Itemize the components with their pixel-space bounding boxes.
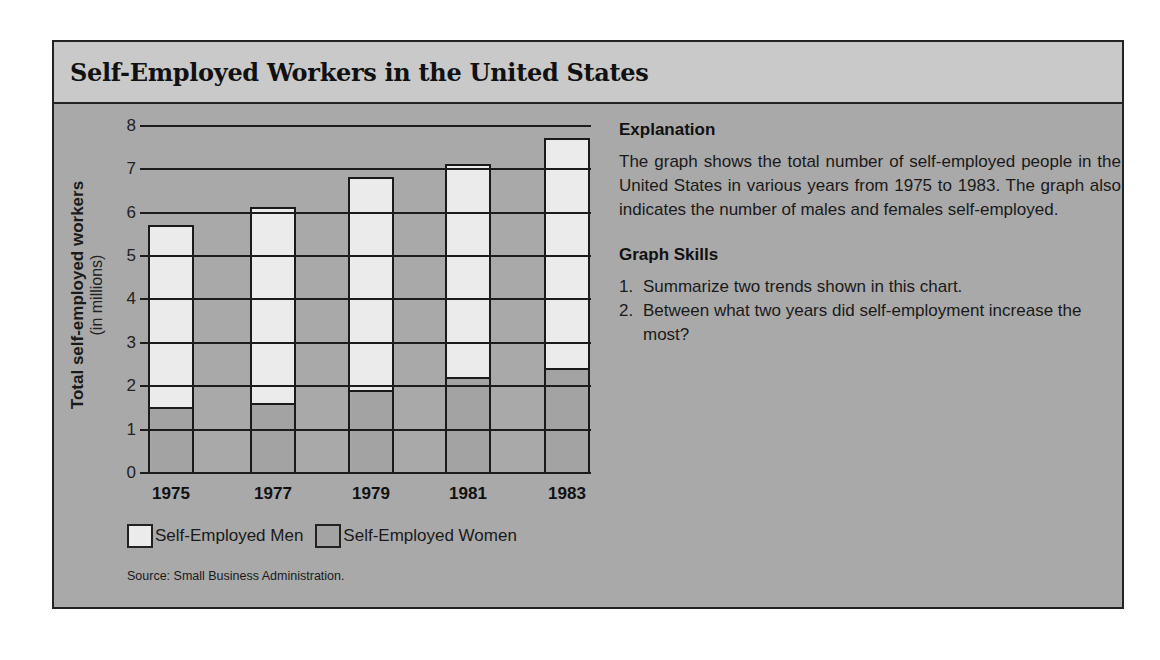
x-tick-label: 1975 xyxy=(131,484,211,504)
gridline-over-bar xyxy=(250,429,296,431)
x-tick-label: 1979 xyxy=(331,484,411,504)
gridline-over-bar xyxy=(544,212,590,214)
bar-women-1981 xyxy=(445,377,491,473)
graph-skills-list: 1. Summarize two trends shown in this ch… xyxy=(619,275,1121,347)
graph-skills-heading: Graph Skills xyxy=(619,245,1121,265)
x-axis-baseline xyxy=(140,472,591,474)
y-tick-label: 4 xyxy=(114,289,136,309)
legend-label: Self-Employed Women xyxy=(343,526,517,546)
y-axis-title: Total self-employed workers xyxy=(68,181,87,409)
gridline-over-bar xyxy=(348,255,394,257)
y-tick-label: 1 xyxy=(114,420,136,440)
gridline-over-bar xyxy=(445,429,491,431)
skill-text: Between what two years did self-employme… xyxy=(643,299,1121,347)
gridline-over-bar xyxy=(544,298,590,300)
text-column: Explanation The graph shows the total nu… xyxy=(619,120,1121,347)
skill-number: 1. xyxy=(619,275,643,299)
gridline-over-bar xyxy=(348,342,394,344)
gridline-over-bar xyxy=(544,168,590,170)
gridline-over-bar xyxy=(250,342,296,344)
y-tick-label: 2 xyxy=(114,376,136,396)
y-tick-label: 8 xyxy=(114,116,136,136)
x-tick-label: 1981 xyxy=(428,484,508,504)
bar-women-1975 xyxy=(148,407,194,473)
gridline-over-bar xyxy=(250,255,296,257)
gridline-over-bar xyxy=(544,255,590,257)
bar-men-1981 xyxy=(445,164,491,378)
legend-item-men: Self-Employed Men xyxy=(127,524,303,548)
x-tick-label: 1983 xyxy=(527,484,607,504)
gridline-over-bar xyxy=(544,429,590,431)
gridline xyxy=(140,125,591,127)
gridline-over-bar xyxy=(445,168,491,170)
chart-title: Self-Employed Workers in the United Stat… xyxy=(70,58,648,87)
men-swatch xyxy=(127,524,153,548)
bar-men-1975 xyxy=(148,225,194,408)
bar-men-1983 xyxy=(544,138,590,369)
skill-item: 1. Summarize two trends shown in this ch… xyxy=(619,275,1121,299)
bar-women-1977 xyxy=(250,403,296,473)
y-axis-label: Total self-employed workers (in millions… xyxy=(62,130,112,460)
bar-women-1979 xyxy=(348,390,394,473)
gridline-over-bar xyxy=(544,385,590,387)
gridline-over-bar xyxy=(250,385,296,387)
gridline-over-bar xyxy=(148,385,194,387)
gridline-over-bar xyxy=(445,342,491,344)
gridline-over-bar xyxy=(148,255,194,257)
gridline-over-bar xyxy=(445,212,491,214)
gridline-over-bar xyxy=(348,429,394,431)
gridline-over-bar xyxy=(148,298,194,300)
explanation-text: The graph shows the total number of self… xyxy=(619,150,1121,222)
bar-women-1983 xyxy=(544,368,590,473)
skill-item: 2. Between what two years did self-emplo… xyxy=(619,299,1121,347)
y-tick-label: 6 xyxy=(114,203,136,223)
gridline-over-bar xyxy=(250,212,296,214)
gridline-over-bar xyxy=(148,342,194,344)
gridline-over-bar xyxy=(445,255,491,257)
gridline-over-bar xyxy=(348,298,394,300)
skill-number: 2. xyxy=(619,299,643,347)
bar-men-1977 xyxy=(250,207,296,403)
y-tick-label: 5 xyxy=(114,246,136,266)
bar-men-1979 xyxy=(348,177,394,391)
gridline-over-bar xyxy=(348,385,394,387)
women-swatch xyxy=(315,524,341,548)
legend: Self-Employed Men Self-Employed Women xyxy=(127,524,529,548)
gridline-over-bar xyxy=(348,212,394,214)
title-band: Self-Employed Workers in the United Stat… xyxy=(54,42,1122,104)
source-note: Source: Small Business Administration. xyxy=(127,569,344,583)
explanation-heading: Explanation xyxy=(619,120,1121,140)
y-tick-label: 7 xyxy=(114,159,136,179)
y-axis-unit: (in millions) xyxy=(87,181,106,409)
y-tick-label: 3 xyxy=(114,333,136,353)
gridline-over-bar xyxy=(250,298,296,300)
y-tick-label: 0 xyxy=(114,463,136,483)
gridline-over-bar xyxy=(445,385,491,387)
gridline-over-bar xyxy=(544,342,590,344)
gridline xyxy=(140,168,591,170)
x-tick-label: 1977 xyxy=(233,484,313,504)
gridline-over-bar xyxy=(148,429,194,431)
legend-item-women: Self-Employed Women xyxy=(315,524,517,548)
skill-text: Summarize two trends shown in this chart… xyxy=(643,275,962,299)
gridline-over-bar xyxy=(445,298,491,300)
legend-label: Self-Employed Men xyxy=(155,526,303,546)
